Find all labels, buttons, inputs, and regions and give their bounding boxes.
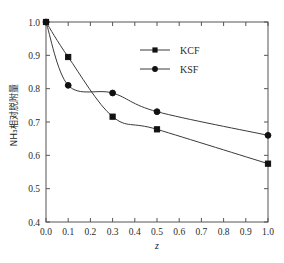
x-tick-label: 0.4: [129, 227, 141, 237]
legend-label-KSF: KSF: [180, 64, 199, 75]
series-line-KSF: [46, 22, 268, 135]
x-tick-label: 0.0: [40, 227, 52, 237]
x-tick-label: 0.9: [240, 227, 252, 237]
x-tick-label: 1.0: [262, 227, 274, 237]
y-tick-label: 0.8: [28, 84, 40, 94]
plot-area: 0.00.10.20.30.40.50.60.70.80.91.0 0.40.5…: [0, 0, 284, 263]
data-point-KCF: [154, 127, 159, 132]
y-tick-label: 0.4: [28, 218, 40, 228]
x-tick-label: 0.5: [151, 227, 163, 237]
y-tick-label: 0.9: [28, 51, 40, 61]
data-point-KSF: [154, 109, 160, 115]
data-point-KCF: [265, 161, 270, 166]
data-point-KSF: [110, 90, 116, 96]
x-tick-label: 0.2: [84, 227, 96, 237]
data-point-KSF: [265, 132, 271, 138]
y-tick-labels: 0.40.50.60.70.80.91.0: [28, 18, 40, 228]
data-point-KSF: [43, 19, 49, 25]
chart-figure: NH₃相对脱附量 z 0.00.10.20.30.40.50.60.70.80.…: [0, 0, 284, 263]
x-axis-label: z: [46, 240, 268, 251]
legend-label-KCF: KCF: [180, 45, 200, 56]
x-tick-label: 0.6: [173, 227, 185, 237]
legend-marker-KSF: [152, 66, 158, 72]
x-tick-label: 0.3: [107, 227, 119, 237]
data-series: [43, 19, 271, 166]
x-tick-label: 0.7: [195, 227, 207, 237]
series-line-KCF: [46, 22, 268, 164]
x-tick-label: 0.1: [62, 227, 74, 237]
chart-legend: KCFKSF: [140, 45, 200, 75]
data-point-KSF: [65, 82, 71, 88]
data-point-KCF: [110, 114, 115, 119]
y-tick-label: 0.6: [28, 151, 40, 161]
x-tick-labels: 0.00.10.20.30.40.50.60.70.80.91.0: [40, 227, 274, 237]
x-axis-label-text: z: [155, 240, 159, 251]
y-tick-label: 0.7: [28, 118, 40, 128]
y-tick-label: 1.0: [28, 18, 40, 28]
x-tick-label: 0.8: [218, 227, 230, 237]
legend-marker-KCF: [152, 47, 157, 52]
data-point-KCF: [66, 54, 71, 59]
y-tick-label: 0.5: [28, 184, 40, 194]
